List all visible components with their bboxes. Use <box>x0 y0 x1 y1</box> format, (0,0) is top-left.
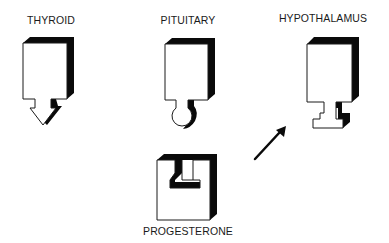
hypothalamus-block <box>307 37 359 128</box>
progesterone-front-face <box>157 160 210 220</box>
hypothalamus-label: HYPOTHALAMUS <box>279 12 367 24</box>
progesterone-notch-edge <box>182 160 193 180</box>
thyroid-block <box>23 37 74 125</box>
hormone-lock-and-key-diagram: THYROID PITUITARY HYPOTHALAMUS PROGESTER… <box>0 0 389 243</box>
pituitary-front-face <box>165 44 208 126</box>
pituitary-block <box>165 38 215 129</box>
thyroid-label: THYROID <box>27 14 75 26</box>
binding-arrow <box>255 126 286 159</box>
progesterone-block <box>157 154 217 220</box>
thyroid-front-face <box>23 43 67 125</box>
diagram-canvas <box>0 0 389 243</box>
progesterone-label: PROGESTERONE <box>143 225 233 237</box>
pituitary-label: PITUITARY <box>161 14 216 26</box>
progesterone-socket-floor <box>170 182 200 188</box>
